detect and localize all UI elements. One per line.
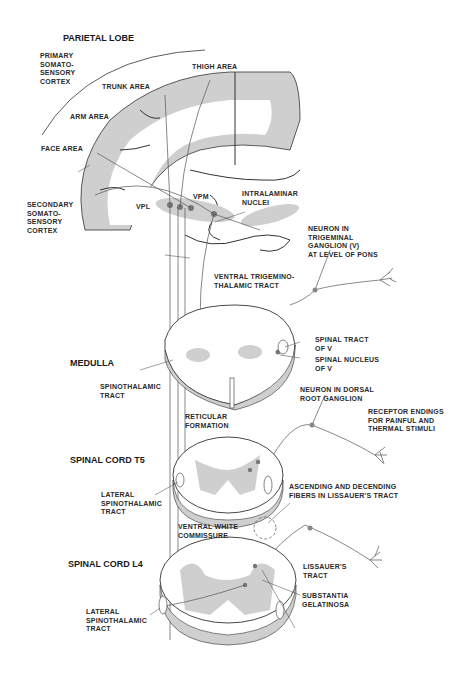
section-spinal-cord-t5: SPINAL CORD T5 <box>70 455 145 465</box>
section-spinal-cord-l4: SPINAL CORD L4 <box>68 559 143 569</box>
label-lateral-spinothalamic-l4: LATERAL SPINOTHALAMIC TRACT <box>86 608 147 634</box>
label-primary-cortex: PRIMARY SOMATO- SENSORY CORTEX <box>40 52 75 86</box>
label-lissauer-fibers: ASCENDING AND DECENDING FIBERS IN LISSAU… <box>289 483 398 500</box>
label-ventral-trigeminothalamic: VENTRAL TRIGEMINO- THALAMIC TRACT <box>214 273 294 290</box>
label-secondary-cortex: SECONDARY SOMATO- SENSORY CORTEX <box>27 201 73 235</box>
label-vpm: VPM <box>193 193 209 202</box>
label-ventral-white-commissure: VENTRAL WHITE COMMISSURE <box>178 523 238 540</box>
label-vpl: VPL <box>136 203 150 212</box>
label-lateral-spinothalamic-t5: LATERAL SPINOTHALAMIC TRACT <box>101 491 162 517</box>
label-substantia-gelatinosa: SUBSTANTIA GELATINOSA <box>302 592 349 609</box>
label-thigh-area: THIGH AREA <box>192 63 237 72</box>
section-medulla: MEDULLA <box>70 358 114 368</box>
label-reticular-formation: RETICULAR FORMATION <box>185 413 229 430</box>
label-arm-area: ARM AREA <box>70 113 109 122</box>
label-trunk-area: TRUNK AREA <box>102 83 150 92</box>
label-drg-neuron: NEURON IN DORSAL ROOT GANGLION <box>300 386 374 403</box>
label-lissauer-tract: LISSAUER'S TRACT <box>303 563 347 580</box>
label-intralaminar: INTRALAMINAR NUCLEI <box>242 190 298 207</box>
label-face-area: FACE AREA <box>41 145 83 154</box>
label-receptor-endings: RECEPTOR ENDINGS FOR PAINFUL AND THERMAL… <box>368 408 444 434</box>
label-spinothalamic-tract: SPINOTHALAMIC TRACT <box>100 383 161 400</box>
label-spinal-tract-v: SPINAL TRACT OF V <box>315 336 369 353</box>
label-spinal-nucleus-v: SPINAL NUCLEUS OF V <box>315 356 379 373</box>
section-parietal-lobe: PARIETAL LOBE <box>63 33 134 43</box>
label-trigeminal-neuron: NEURON IN TRIGEMINAL GANGLION (V) AT LEV… <box>308 225 378 259</box>
neuroanatomy-diagram: PARIETAL LOBE MEDULLA SPINAL CORD T5 SPI… <box>0 0 472 676</box>
pathway-illustration <box>0 0 472 676</box>
